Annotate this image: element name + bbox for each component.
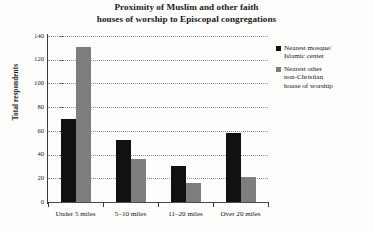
legend-label-line: Nearest other [284,65,333,73]
legend-label-line: Nearest mosque/ [284,44,331,52]
bar-chart-figure: Proximity of Muslim and other faith hous… [0,0,373,233]
chart-title-line-2: houses of worship to Episcopal congregat… [0,14,373,26]
legend-label: Nearest othernon-Christianhouse of worsh… [284,65,333,90]
legend-item[interactable]: Nearest mosque/Islamic center [276,44,372,61]
legend-label-line: non-Christian [284,73,333,81]
x-tick-mark-2 [158,202,159,207]
bar [241,177,256,202]
chart-title: Proximity of Muslim and other faith hous… [0,2,373,25]
legend-label: Nearest mosque/Islamic center [284,44,331,61]
legend-label-line: house of worship [284,82,333,90]
y-tick-label-100: 100 [20,80,44,87]
legend-item[interactable]: Nearest othernon-Christianhouse of worsh… [276,65,372,90]
y-tick-label-0: 0 [20,199,44,206]
y-tick-label-80: 80 [20,104,44,111]
x-tick-mark-1 [103,202,104,207]
bar [131,159,146,202]
bar [76,47,91,202]
chart-title-line-1: Proximity of Muslim and other faith [0,2,373,14]
bar [61,119,76,202]
bar-group [158,36,213,202]
y-tick-label-60: 60 [20,128,44,135]
bar-group [48,36,103,202]
x-tick-label-3: Over 20 miles [205,210,277,218]
x-tick-mark-3 [213,202,214,207]
y-tick-label-40: 40 [20,151,44,158]
bar [171,166,186,202]
plot-area [48,36,268,202]
y-tick-label-120: 120 [20,56,44,63]
bar-group [103,36,158,202]
y-tick-label-140: 140 [20,33,44,40]
bar-groups [48,36,268,202]
bar-group [213,36,268,202]
legend-label-line: Islamic center [284,52,331,60]
bar [116,140,131,202]
y-tick-label-20: 20 [20,175,44,182]
x-tick-mark-4 [268,202,269,207]
legend-swatch-icon [276,67,281,72]
bar [226,133,241,202]
legend-swatch-icon [276,46,281,51]
bar [186,183,201,202]
y-axis-ticks: 020406080100120140 [16,0,44,233]
chart-legend: Nearest mosque/Islamic centerNearest oth… [276,44,372,94]
x-tick-mark-0 [48,202,49,207]
